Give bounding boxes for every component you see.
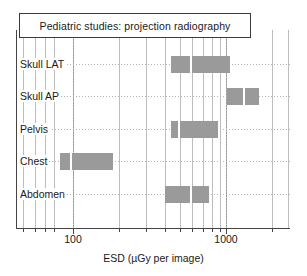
bar-split-skull-lat	[190, 56, 192, 73]
bar-split-pelvis	[178, 121, 180, 138]
x-axis-spine	[16, 228, 290, 229]
chart-title: Pediatric studies: projection radiograph…	[40, 20, 231, 32]
xticklabel-100: 100	[53, 233, 93, 245]
bar-skull-ap	[227, 88, 259, 105]
xtick-300	[146, 228, 147, 232]
xtick-900	[220, 228, 221, 232]
xtick-200	[119, 228, 120, 232]
xtick-2000	[272, 228, 273, 232]
xtick-800	[212, 228, 213, 232]
bar-chest	[60, 153, 113, 170]
x-axis-title: ESD (µGy per image)	[0, 252, 307, 264]
bar-skull-lat	[171, 56, 230, 73]
ylabel-skull-ap: Skull AP	[18, 90, 61, 102]
bar-pelvis	[171, 121, 218, 138]
y-axis-spine	[16, 30, 17, 228]
bar-split-chest	[70, 153, 72, 170]
xtick-70	[35, 228, 36, 232]
bar-split-skull-ap	[243, 88, 245, 105]
ylabel-abdomen: Abdomen	[18, 188, 67, 200]
xtick-80	[45, 228, 46, 232]
ylabel-chest: Chest	[18, 155, 49, 167]
hgrid-chest	[16, 161, 290, 162]
xticklabel-1000: 1000	[203, 233, 249, 245]
hgrid-pelvis	[16, 129, 290, 130]
xtick-60	[23, 228, 24, 232]
bar-split-abdomen	[190, 186, 192, 203]
xtick-400	[165, 228, 166, 232]
ylabel-skull-lat: Skull LAT	[18, 58, 66, 70]
xtick-600	[192, 228, 193, 232]
bar-abdomen	[165, 186, 209, 203]
xtick-500	[180, 228, 181, 232]
ylabel-pelvis: Pelvis	[18, 123, 50, 135]
xtick-700	[203, 228, 204, 232]
chart-title-box: Pediatric studies: projection radiograph…	[19, 13, 251, 38]
chart-figure: Skull LAT Skull AP Pelvis Chest Abdomen …	[0, 0, 307, 276]
xtick-90	[54, 228, 55, 232]
